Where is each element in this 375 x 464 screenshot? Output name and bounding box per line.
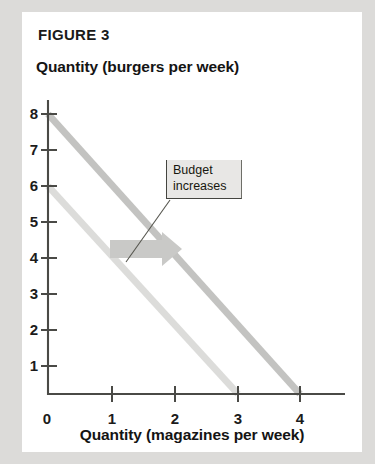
annotation-line-1: Budget: [173, 163, 236, 179]
x-axis-tick-labels: 0 1 2 3 4: [43, 410, 305, 427]
x-tick-label: 4: [296, 410, 305, 427]
budget-line-chart: 8 7 6 5 4 3 2 1 0 1 2 3 4: [22, 12, 362, 452]
y-tick-label: 6: [30, 177, 38, 194]
y-tick-label: 1: [30, 357, 38, 374]
x-tick-label: 2: [171, 410, 179, 427]
y-tick-label: 3: [30, 285, 38, 302]
y-tick-label: 7: [30, 141, 38, 158]
y-tick-label: 5: [30, 213, 38, 230]
x-axis-title: Quantity (magazines per week): [22, 426, 362, 444]
y-axis-tick-labels: 8 7 6 5 4 3 2 1: [30, 105, 39, 374]
y-tick-label: 8: [30, 105, 38, 122]
x-tick-label: 0: [43, 410, 51, 427]
x-tick-label: 1: [108, 410, 116, 427]
figure-card: FIGURE 3 Quantity (burgers per week): [22, 12, 362, 452]
budget-increases-annotation: Budget increases: [166, 160, 242, 199]
y-tick-label: 2: [30, 321, 38, 338]
y-tick-label: 4: [30, 249, 39, 266]
x-tick-label: 3: [234, 410, 242, 427]
annotation-line-2: increases: [173, 179, 236, 195]
